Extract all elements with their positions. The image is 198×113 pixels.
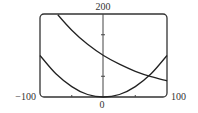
x-min-label: −100 xyxy=(15,91,36,102)
x-max-label: 100 xyxy=(171,91,186,102)
x-origin-label: 0 xyxy=(100,99,105,110)
series-decreasing-curve xyxy=(58,15,167,81)
chart: 200 −100 100 0 xyxy=(0,0,198,113)
y-max-label: 200 xyxy=(96,1,111,12)
